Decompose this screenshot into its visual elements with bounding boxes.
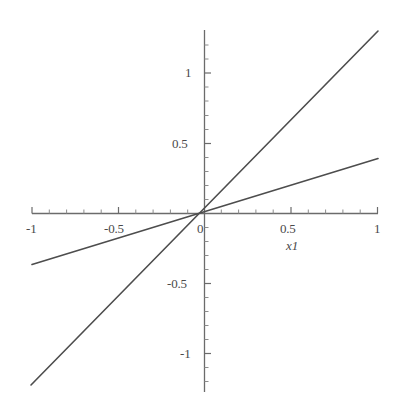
plot-canvas: [0, 0, 403, 412]
x-tick-label-half: 0.5: [280, 222, 296, 235]
x-tick-label-one: 1: [374, 222, 380, 235]
x-axis-label: x1: [286, 239, 298, 252]
y-tick-label-neg-one: -1: [180, 347, 190, 360]
line-plot: -1 -0.5 0 0.5 1 x1 1 0.5 -0.5 -1: [0, 0, 403, 412]
x-tick-label-zero: 0: [197, 222, 203, 235]
x-tick-label-neg-half: -0.5: [104, 222, 124, 235]
y-tick-label-half: 0.5: [172, 137, 188, 150]
y-tick-label-one: 1: [185, 66, 191, 79]
y-tick-label-neg-half: -0.5: [167, 277, 187, 290]
x-tick-label-neg-one: -1: [26, 222, 36, 235]
